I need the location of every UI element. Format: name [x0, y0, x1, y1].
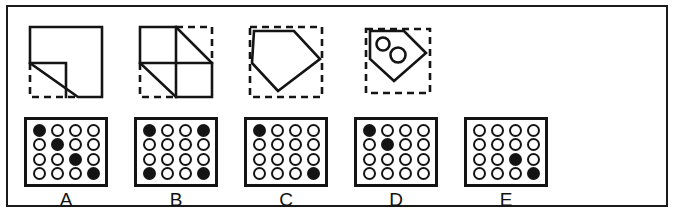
dot-empty: [491, 153, 504, 166]
dot-cell: [268, 152, 286, 167]
dot-filled: [527, 167, 540, 180]
dot-cell: [470, 152, 488, 167]
dot-empty: [363, 167, 376, 180]
dot-filled: [87, 167, 100, 180]
dot-cell: [360, 167, 378, 182]
dot-empty: [197, 153, 210, 166]
dot-empty: [271, 153, 284, 166]
option-label-b: B: [128, 189, 224, 213]
dot-empty: [399, 153, 412, 166]
dot-filled: [69, 153, 82, 166]
dot-cell: [396, 123, 414, 138]
option-label-e: E: [458, 189, 554, 213]
dot-empty: [271, 167, 284, 180]
dot-cell: [488, 152, 506, 167]
dot-empty: [399, 124, 412, 137]
dot-cell: [30, 138, 48, 153]
option-label-d: D: [348, 189, 444, 213]
dot-cell: [488, 167, 506, 182]
dot-empty: [417, 124, 430, 137]
dot-empty: [509, 124, 522, 137]
dot-empty: [289, 124, 302, 137]
dot-cell: [158, 123, 176, 138]
figure-border: A B C D E: [6, 5, 668, 207]
dot-cell: [140, 123, 158, 138]
dot-empty: [417, 167, 430, 180]
dot-cell: [304, 152, 322, 167]
dot-cell: [48, 138, 66, 153]
dot-cell: [470, 167, 488, 182]
dot-empty: [363, 138, 376, 151]
dot-cell: [66, 152, 84, 167]
dot-cell: [158, 138, 176, 153]
dot-filled: [51, 138, 64, 151]
dot-cell: [286, 152, 304, 167]
dot-empty: [69, 124, 82, 137]
dot-empty: [527, 138, 540, 151]
dot-cell: [30, 167, 48, 182]
dot-cell: [66, 167, 84, 182]
dot-cell: [194, 123, 212, 138]
dot-cell: [304, 167, 322, 182]
dot-cell: [524, 138, 542, 153]
dot-empty: [33, 138, 46, 151]
dot-grid-e-cells: [464, 117, 548, 187]
dot-cell: [158, 167, 176, 182]
shape-a-drawing: [22, 19, 118, 105]
dot-empty: [399, 167, 412, 180]
dot-empty: [253, 167, 266, 180]
dot-empty: [399, 138, 412, 151]
dot-filled: [253, 124, 266, 137]
dot-empty: [87, 153, 100, 166]
dot-cell: [506, 123, 524, 138]
dot-filled: [381, 138, 394, 151]
shape-b-drawing: [132, 19, 228, 105]
dot-empty: [271, 124, 284, 137]
dot-cell: [48, 123, 66, 138]
dot-empty: [509, 138, 522, 151]
dot-grid-d: [354, 117, 438, 187]
dot-cell: [396, 152, 414, 167]
dot-cell: [396, 167, 414, 182]
dot-grid-a-cells: [24, 117, 108, 187]
dot-empty: [473, 153, 486, 166]
dot-empty: [307, 153, 320, 166]
dot-cell: [414, 138, 432, 153]
dot-cell: [66, 138, 84, 153]
dot-empty: [161, 167, 174, 180]
dot-empty: [51, 167, 64, 180]
dot-cell: [250, 138, 268, 153]
dot-empty: [527, 124, 540, 137]
dot-cell: [524, 167, 542, 182]
dot-empty: [33, 153, 46, 166]
shape-d-drawing: [352, 19, 448, 105]
dot-empty: [271, 138, 284, 151]
dot-cell: [250, 123, 268, 138]
dot-empty: [381, 153, 394, 166]
dot-cell: [396, 138, 414, 153]
dot-empty: [51, 153, 64, 166]
dot-empty: [509, 167, 522, 180]
dot-empty: [491, 138, 504, 151]
shape-d-circle-1: [377, 38, 390, 51]
dot-filled: [509, 153, 522, 166]
dot-cell: [84, 167, 102, 182]
shape-d: [352, 19, 448, 105]
dot-cell: [268, 167, 286, 182]
dot-cell: [30, 152, 48, 167]
dot-cell: [488, 138, 506, 153]
dot-cell: [524, 123, 542, 138]
dot-empty: [87, 138, 100, 151]
dot-cell: [194, 167, 212, 182]
dot-cell: [286, 167, 304, 182]
dot-cell: [414, 152, 432, 167]
dot-cell: [304, 123, 322, 138]
dot-cell: [194, 152, 212, 167]
dot-grid-e: [464, 117, 548, 187]
shape-d-circle-2: [391, 48, 406, 63]
dot-cell: [378, 138, 396, 153]
dot-cell: [250, 152, 268, 167]
dot-cell: [48, 152, 66, 167]
dot-cell: [84, 123, 102, 138]
dot-empty: [289, 167, 302, 180]
